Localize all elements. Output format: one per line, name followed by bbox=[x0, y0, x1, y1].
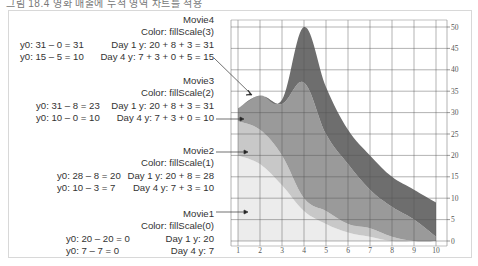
y-axis: 05101520253035404550 bbox=[447, 23, 459, 246]
y-tick-label: 35 bbox=[451, 87, 459, 96]
x-tick-label: 6 bbox=[346, 246, 350, 255]
x-tick-label: 4 bbox=[302, 246, 306, 255]
y-tick-label: 45 bbox=[451, 44, 459, 53]
y-tick-label: 0 bbox=[451, 237, 455, 246]
x-tick-label: 7 bbox=[368, 246, 372, 255]
y-tick-label: 20 bbox=[451, 151, 459, 160]
x-tick-label: 3 bbox=[280, 246, 284, 255]
y-tick-label: 5 bbox=[451, 215, 455, 224]
stacked-area-chart: 12345678910 05101520253035404550 bbox=[0, 0, 478, 266]
y-tick-label: 50 bbox=[451, 23, 459, 32]
y-tick-label: 30 bbox=[451, 108, 459, 117]
x-tick-label: 1 bbox=[236, 246, 240, 255]
x-tick-label: 10 bbox=[432, 246, 440, 255]
y-tick-label: 10 bbox=[451, 194, 459, 203]
x-tick-label: 9 bbox=[412, 246, 416, 255]
x-tick-label: 2 bbox=[258, 246, 262, 255]
x-axis: 12345678910 bbox=[236, 246, 440, 255]
x-tick-label: 8 bbox=[390, 246, 394, 255]
y-tick-label: 15 bbox=[451, 172, 459, 181]
y-tick-label: 40 bbox=[451, 65, 459, 74]
y-tick-label: 25 bbox=[451, 130, 459, 139]
x-tick-label: 5 bbox=[324, 246, 328, 255]
